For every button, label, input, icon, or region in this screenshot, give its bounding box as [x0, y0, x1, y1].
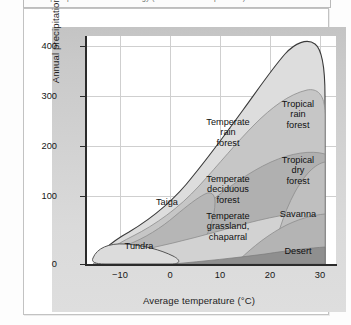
figure-page: …of precipitation and heat energy (measu…	[0, 0, 351, 325]
y-tick-label-0: 0	[23, 259, 57, 269]
x-tick-label-0: 0	[150, 270, 190, 280]
y-axis-line	[85, 36, 87, 266]
y-tick-label-400: 400	[23, 41, 57, 51]
chart-panel: Annual precipitation (cm) 400 300 200 10…	[52, 27, 346, 312]
x-tick-label-minus10: −10	[100, 270, 140, 280]
x-axis-line	[85, 264, 337, 266]
caption-fragment-text: …of precipitation and heat energy (measu…	[34, 0, 245, 2]
y-tick-label-300: 300	[23, 91, 57, 101]
y-tick-label-100: 100	[23, 191, 57, 201]
y-tick-label-200: 200	[23, 141, 57, 151]
caption-strip: …of precipitation and heat energy (measu…	[23, 0, 331, 8]
x-tick-label-10: 10	[200, 270, 240, 280]
x-axis-title: Average temperature (°C)	[52, 295, 346, 306]
x-tick-label-20: 20	[250, 270, 290, 280]
x-tick-label-30: 30	[300, 270, 340, 280]
biome-regions-svg	[85, 36, 336, 265]
figure-frame: Annual precipitation (cm) 400 300 200 10…	[23, 8, 329, 315]
